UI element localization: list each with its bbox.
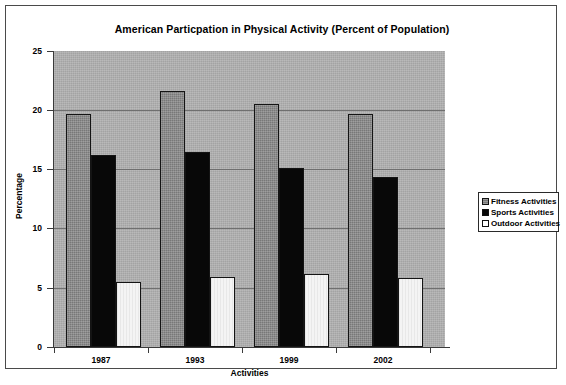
x-axis-title: Activities (54, 368, 445, 378)
x-tick-label-1987: 1987 (61, 355, 141, 365)
y-tick-mark (47, 228, 53, 229)
bar-outdoor-1993 (210, 277, 235, 347)
x-tick-label-2002: 2002 (343, 355, 423, 365)
chart-legend: Fitness Activities Sports Activities Out… (478, 192, 559, 232)
bar-sports-2002 (373, 177, 398, 348)
bar-sports-1987 (91, 155, 116, 347)
solid-black-swatch-icon (482, 209, 489, 216)
x-axis-line (47, 347, 450, 348)
hatched-gray-swatch-icon (482, 198, 489, 205)
y-tick-mark (47, 169, 53, 170)
y-axis-title: Percentage (14, 161, 24, 231)
legend-label-sports: Sports Activities (491, 208, 554, 217)
y-tick-mark (47, 347, 53, 348)
legend-item-fitness: Fitness Activities (482, 196, 555, 206)
y-tick-mark (47, 110, 53, 111)
bar-outdoor-1999 (304, 274, 329, 347)
y-tick-mark (47, 288, 53, 289)
chart-title: American Particpation in Physical Activi… (6, 23, 558, 35)
x-tick-mark (54, 348, 55, 353)
legend-label-fitness: Fitness Activities (491, 197, 557, 206)
bar-outdoor-1987 (116, 282, 141, 347)
y-tick-label-25: 25 (8, 46, 42, 56)
x-tick-mark (336, 348, 337, 353)
legend-item-outdoor: Outdoor Activities (482, 218, 555, 228)
plot-area (54, 51, 445, 347)
bar-sports-1999 (279, 168, 304, 347)
x-tick-label-1993: 1993 (155, 355, 235, 365)
legend-item-sports: Sports Activities (482, 207, 555, 217)
bar-sports-1993 (185, 152, 210, 347)
bar-fitness-1987 (66, 114, 91, 347)
x-tick-label-1999: 1999 (249, 355, 329, 365)
x-tick-mark (148, 348, 149, 353)
y-tick-label-20: 20 (8, 105, 42, 115)
gridline-20 (54, 110, 445, 111)
bar-outdoor-2002 (398, 278, 423, 347)
figure-frame: American Particpation in Physical Activi… (5, 5, 557, 369)
solid-white-swatch-icon (482, 220, 489, 227)
x-tick-mark (242, 348, 243, 353)
y-tick-label-5: 5 (8, 283, 42, 293)
legend-label-outdoor: Outdoor Activities (491, 219, 560, 228)
bar-fitness-1999 (254, 104, 279, 347)
bar-fitness-1993 (160, 91, 185, 347)
y-tick-mark (47, 51, 53, 52)
y-tick-label-0: 0 (8, 342, 42, 352)
x-tick-mark (430, 348, 431, 353)
bar-fitness-2002 (348, 114, 373, 347)
